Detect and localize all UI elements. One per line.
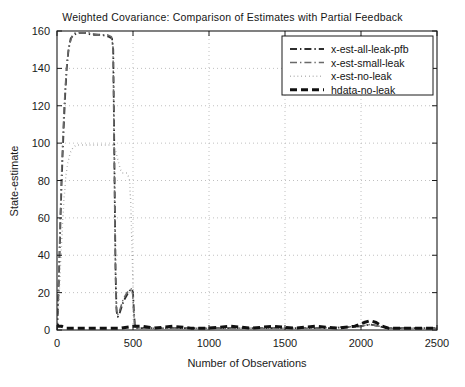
x-tick-label: 1000 bbox=[197, 337, 221, 349]
y-tick-label: 80 bbox=[38, 175, 50, 187]
chart-figure: Weighted Covariance: Comparison of Estim… bbox=[0, 0, 465, 387]
y-tick-label: 160 bbox=[32, 25, 50, 37]
y-tick-label: 140 bbox=[32, 62, 50, 74]
x-tick-label: 1500 bbox=[273, 337, 297, 349]
y-tick-label: 100 bbox=[32, 137, 50, 149]
legend[interactable]: x-est-all-leak-pfbx-est-small-leakx-est-… bbox=[282, 36, 433, 96]
legend-label-3: hdata-no-leak bbox=[331, 84, 396, 96]
y-tick-label: 20 bbox=[38, 287, 50, 299]
x-tick-label: 2500 bbox=[425, 337, 449, 349]
x-tick-label: 500 bbox=[124, 337, 142, 349]
x-tick-label: 0 bbox=[54, 337, 60, 349]
legend-label-2: x-est-no-leak bbox=[331, 70, 392, 82]
x-axis-title: Number of Observations bbox=[187, 357, 307, 369]
y-tick-label: 40 bbox=[38, 249, 50, 261]
x-axis-tick-labels: 05001000150020002500 bbox=[54, 337, 449, 349]
y-tick-label: 0 bbox=[44, 324, 50, 336]
y-tick-label: 120 bbox=[32, 100, 50, 112]
y-axis-tick-labels: 020406080100120140160 bbox=[32, 25, 50, 336]
y-tick-label: 60 bbox=[38, 212, 50, 224]
series-line-3 bbox=[57, 321, 437, 328]
x-tick-label: 2000 bbox=[349, 337, 373, 349]
legend-label-1: x-est-small-leak bbox=[331, 57, 405, 69]
legend-label-0: x-est-all-leak-pfb bbox=[331, 43, 409, 55]
plot-area: 020406080100120140160 050010001500200025… bbox=[0, 0, 465, 387]
y-axis-title: State-estimate bbox=[8, 146, 20, 217]
